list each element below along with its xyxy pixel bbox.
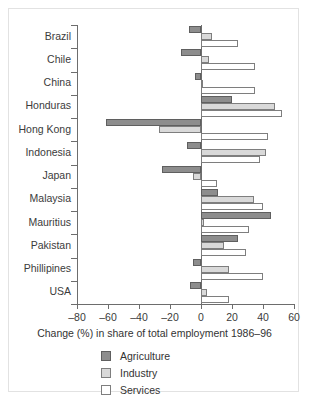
y-axis-tick (71, 258, 77, 259)
bar-industry (201, 149, 266, 156)
bar-services (201, 180, 217, 187)
y-axis-tick (71, 234, 77, 235)
bar-industry (201, 242, 224, 249)
bar-industry (159, 126, 201, 133)
y-axis-tick (71, 211, 77, 212)
y-axis-category-label: Honduras (0, 100, 71, 111)
y-axis-category-label: Malaysia (0, 193, 71, 204)
legend-label-services: Services (120, 384, 160, 396)
x-axis-tick-label: –80 (62, 311, 92, 323)
x-axis-tick (263, 304, 264, 309)
bar-agriculture (201, 212, 271, 219)
legend-label-industry: Industry (120, 367, 157, 379)
x-axis-title: Change (%) in share of total employment … (9, 327, 300, 339)
y-axis-line (77, 25, 78, 304)
y-axis-category-label: Hong Kong (0, 124, 71, 135)
y-axis-category-label: Phillipines (0, 263, 71, 274)
bar-industry (201, 80, 203, 87)
y-axis-category-label: Pakistan (0, 240, 71, 251)
bar-services (201, 226, 249, 233)
bar-services (201, 156, 260, 163)
bar-agriculture (201, 189, 218, 196)
chart-legend: Agriculture Industry Services (101, 347, 170, 398)
y-axis-category-label: Mauritius (0, 217, 71, 228)
bar-industry (201, 103, 275, 110)
bar-industry (201, 56, 209, 63)
y-axis-tick (71, 188, 77, 189)
bar-agriculture (181, 49, 201, 56)
x-axis-tick-label: 0 (186, 311, 216, 323)
bar-agriculture (187, 142, 201, 149)
y-axis-category-label: Japan (0, 170, 71, 181)
plot-area (77, 25, 294, 304)
x-axis-tick (201, 304, 202, 309)
bar-services (201, 296, 229, 303)
bar-services (201, 273, 263, 280)
x-axis-tick-label: –40 (124, 311, 154, 323)
y-axis-tick (71, 141, 77, 142)
bar-industry (193, 173, 201, 180)
y-axis-tick (71, 72, 77, 73)
y-axis-tick (71, 281, 77, 282)
chart-figure: Change (%) in share of total employment … (8, 8, 299, 392)
bar-services (201, 63, 255, 70)
y-axis-tick (71, 304, 77, 305)
bar-agriculture (189, 26, 201, 33)
y-axis-category-label: Chile (0, 54, 71, 65)
bar-services (201, 249, 246, 256)
bar-industry (201, 196, 254, 203)
bar-industry (201, 33, 212, 40)
legend-swatch-services (101, 385, 111, 395)
legend-item-agriculture: Agriculture (101, 347, 170, 364)
y-axis-tick (71, 95, 77, 96)
bar-services (201, 133, 268, 140)
bar-industry (201, 289, 207, 296)
x-axis-tick (170, 304, 171, 309)
bar-industry (201, 266, 229, 273)
legend-label-agriculture: Agriculture (120, 350, 170, 362)
y-axis-tick (71, 25, 77, 26)
bar-services (201, 110, 282, 117)
y-axis-category-label: USA (0, 286, 71, 297)
bar-services (201, 87, 255, 94)
x-axis-tick-label: –20 (155, 311, 185, 323)
bar-agriculture (193, 259, 201, 266)
x-axis-tick (77, 304, 78, 309)
bar-agriculture (162, 166, 201, 173)
legend-swatch-agriculture (101, 351, 111, 361)
y-axis-tick (71, 48, 77, 49)
legend-swatch-industry (101, 368, 111, 378)
x-axis-tick (232, 304, 233, 309)
y-axis-category-label: Indonesia (0, 147, 71, 158)
x-axis-tick-label: 40 (248, 311, 278, 323)
bar-services (201, 203, 263, 210)
y-axis-tick (71, 118, 77, 119)
x-axis-tick-label: 20 (217, 311, 247, 323)
x-axis-tick-label: 60 (279, 311, 309, 323)
legend-item-industry: Industry (101, 364, 170, 381)
y-axis-tick (71, 165, 77, 166)
bar-agriculture (190, 282, 201, 289)
bar-agriculture (195, 73, 201, 80)
bar-agriculture (201, 235, 238, 242)
bar-agriculture (201, 96, 232, 103)
bar-industry (201, 219, 204, 226)
legend-item-services: Services (101, 381, 170, 398)
x-axis-tick-label: –60 (93, 311, 123, 323)
bar-agriculture (106, 119, 201, 126)
y-axis-category-label: Brazil (0, 31, 71, 42)
x-axis-tick (294, 304, 295, 309)
x-axis-line (77, 304, 294, 305)
x-axis-tick (108, 304, 109, 309)
y-axis-category-label: China (0, 77, 71, 88)
bar-services (201, 40, 238, 47)
x-axis-tick (139, 304, 140, 309)
